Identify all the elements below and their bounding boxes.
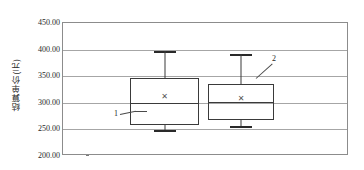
median-line-1 [130,103,199,104]
boxplot-series-2: ✕ [208,23,274,154]
y-tick-mark-200 [86,155,89,156]
plot-area: ✕ ✕ [62,22,348,155]
annotation-label-2: 2 [272,55,276,63]
gridline-350 [63,76,347,77]
annotation-label-1: 1 [114,110,118,118]
boxplot-series-1: ✕ [130,23,199,154]
y-tick-label-350: 350.00 [26,71,60,80]
gridline-250 [63,129,347,130]
y-axis-tick-labels: 450.00 400.00 350.00 300.00 250.00 200.0… [26,0,60,170]
y-tick-label-300: 300.00 [26,97,60,106]
gridline-300 [63,103,347,104]
whisker-line-upper-2 [241,54,242,84]
mean-marker-1: ✕ [161,93,168,101]
y-axis-title-text: 结算单价(元) [13,59,22,111]
whisker-cap-lower-1 [154,130,176,132]
y-tick-label-200: 200.00 [26,151,60,160]
y-tick-label-400: 400.00 [26,44,60,53]
gridline-400 [63,50,347,51]
y-axis-title: 结算单价(元) [9,42,25,128]
whisker-line-upper-1 [164,51,165,78]
whisker-cap-lower-2 [230,126,252,128]
annotation-leader-1b [135,111,147,112]
y-tick-label-450: 450.00 [26,18,60,27]
chart-screenshot: 结算单价(元) 450.00 400.00 350.00 300.00 250.… [0,0,364,170]
y-tick-label-250: 250.00 [26,124,60,133]
mean-marker-2: ✕ [238,95,245,103]
